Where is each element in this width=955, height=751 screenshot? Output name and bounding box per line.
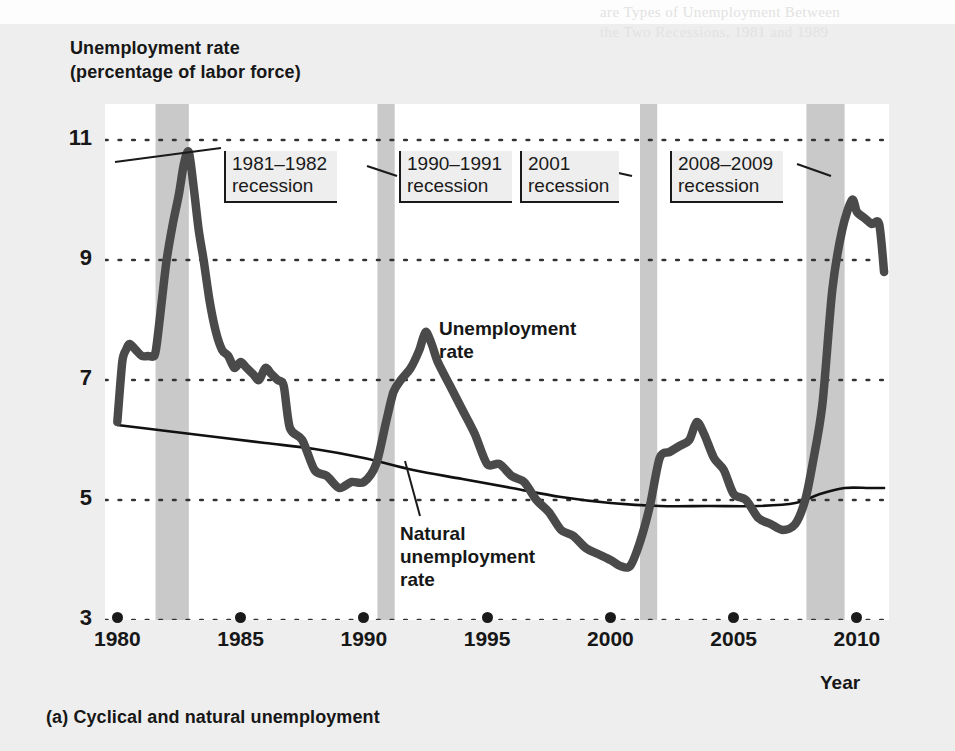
callout-line-2: recession xyxy=(407,175,502,197)
y-tick-label-5: 5 xyxy=(58,485,92,511)
x-tick-label-2005: 2005 xyxy=(689,627,779,651)
natural-rate-label-line-3: rate xyxy=(400,569,535,592)
unemployment-rate-series-label: Unemployment rate xyxy=(439,318,576,364)
figure-caption: (a) Cyclical and natural unemployment xyxy=(46,707,380,728)
callout-recession-1990-1991: 1990–1991recession xyxy=(399,151,512,203)
x-tick-label-1985: 1985 xyxy=(196,627,286,651)
callout-recession-2001: 2001recession xyxy=(520,151,619,203)
recession-band-2 xyxy=(377,104,394,620)
y-tick-label-11: 11 xyxy=(58,125,92,151)
x-tick-marker-1980 xyxy=(112,612,123,623)
unemployment-rate-label-line-1: Unemployment xyxy=(439,318,576,341)
x-tick-label-1990: 1990 xyxy=(319,627,409,651)
x-tick-marker-1995 xyxy=(482,612,493,623)
y-tick-label-9: 9 xyxy=(58,245,92,271)
callout-line-1: 2001 xyxy=(528,153,609,175)
bleed-through-text-top-2: the Two Recessions, 1981 and 1989 xyxy=(600,24,829,41)
y-axis-title-line-1: Unemployment rate xyxy=(70,37,301,61)
y-axis-title: Unemployment rate (percentage of labor f… xyxy=(70,37,301,85)
callout-line-2: recession xyxy=(232,175,327,197)
natural-rate-label-line-1: Natural xyxy=(400,523,535,546)
figure-page: are Types of Unemployment Between the Tw… xyxy=(0,0,955,751)
x-tick-label-2010: 2010 xyxy=(812,627,902,651)
natural-rate-series-label: Natural unemployment rate xyxy=(400,523,535,591)
y-axis-title-line-2: (percentage of labor force) xyxy=(70,61,301,85)
callout-recession-1981-1982: 1981–1982recession xyxy=(224,151,337,203)
natural-rate-label-line-2: unemployment xyxy=(400,546,535,569)
callout-recession-2008-2009: 2008–2009recession xyxy=(670,151,783,203)
x-tick-marker-2000 xyxy=(605,612,616,623)
callout-line-1: 1981–1982 xyxy=(232,153,327,175)
unemployment-rate-label-line-2: rate xyxy=(439,341,576,364)
x-axis-label: Year xyxy=(820,672,860,694)
callout-line-1: 1990–1991 xyxy=(407,153,502,175)
y-tick-label-7: 7 xyxy=(58,365,92,391)
callout-line-1: 2008–2009 xyxy=(678,153,773,175)
bleed-through-text-top-1: are Types of Unemployment Between xyxy=(600,4,840,21)
x-tick-label-1980: 1980 xyxy=(72,627,162,651)
x-tick-label-1995: 1995 xyxy=(442,627,532,651)
callout-line-2: recession xyxy=(528,175,609,197)
callout-line-2: recession xyxy=(678,175,773,197)
x-tick-label-2000: 2000 xyxy=(565,627,655,651)
